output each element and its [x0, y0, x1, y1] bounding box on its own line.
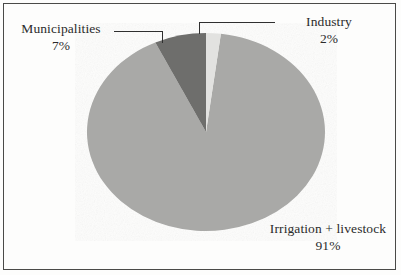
slice-label-municipalities: Municipalities 7%	[9, 21, 113, 53]
slice-label-irrigation-livestock-percent: 91%	[265, 236, 391, 253]
slice-label-industry: Industry 2%	[279, 14, 379, 46]
slice-label-industry-percent: 2%	[279, 29, 379, 46]
slice-label-municipalities-name: Municipalities	[9, 21, 113, 36]
chart-canvas: Municipalities 7% Industry 2% Irrigation…	[0, 0, 401, 275]
slice-label-industry-name: Industry	[279, 14, 379, 29]
slice-label-irrigation-livestock-name: Irrigation + livestock	[265, 221, 391, 236]
leader-line-industry-vertical	[199, 22, 200, 34]
leader-line-industry-horizontal	[199, 22, 275, 23]
leader-line-municipalities-vertical	[162, 31, 163, 43]
leader-line-municipalities-horizontal	[114, 31, 163, 32]
slice-label-municipalities-percent: 7%	[9, 36, 113, 53]
slice-label-irrigation-livestock: Irrigation + livestock 91%	[265, 221, 391, 253]
